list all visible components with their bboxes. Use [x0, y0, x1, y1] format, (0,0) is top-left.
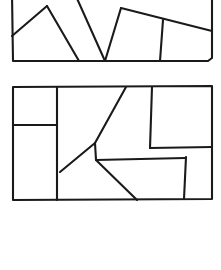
- polygon-partition-figure: [0, 0, 221, 270]
- lower-figure: [13, 86, 212, 200]
- lower-cut-right-horizontal: [150, 147, 212, 148]
- upper-figure: [12, 0, 212, 61]
- lower-figure-outline: [13, 86, 212, 200]
